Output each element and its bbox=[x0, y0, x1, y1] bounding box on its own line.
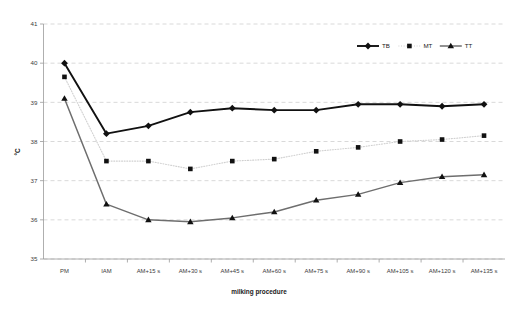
y-axis-title: °C bbox=[14, 148, 21, 156]
data-point-mt bbox=[482, 133, 487, 138]
data-point-mt bbox=[230, 159, 235, 164]
y-tick-label: 36 bbox=[31, 216, 38, 223]
x-tick-label: IAM bbox=[101, 268, 112, 274]
series-line-mt bbox=[64, 77, 484, 169]
y-tick-label: 38 bbox=[31, 138, 38, 145]
y-tick-label: 40 bbox=[31, 59, 38, 66]
line-chart: 35363738394041 PMIAMAM+15 sAM+30 sAM+45 … bbox=[0, 0, 518, 313]
gridlines-group bbox=[44, 24, 506, 259]
y-tick-marks-group bbox=[40, 24, 44, 259]
data-point-mt bbox=[146, 159, 151, 164]
data-point-tb bbox=[355, 101, 362, 108]
y-tick-label: 37 bbox=[31, 177, 38, 184]
y-tick-label: 35 bbox=[31, 255, 38, 262]
x-tick-label: AM+105 s bbox=[387, 268, 414, 274]
data-point-tb bbox=[271, 107, 278, 114]
data-point-mt bbox=[356, 145, 361, 150]
data-point-mt bbox=[104, 159, 109, 164]
x-tick-label: AM+45 s bbox=[221, 268, 244, 274]
y-tick-label: 41 bbox=[31, 20, 38, 27]
data-point-mt bbox=[62, 75, 67, 80]
x-tick-marks-group bbox=[85, 259, 463, 263]
series-lines-group bbox=[64, 63, 484, 222]
x-tick-label: AM+60 s bbox=[263, 268, 286, 274]
data-point-tb bbox=[439, 103, 446, 110]
data-point-mt bbox=[440, 137, 445, 142]
x-tick-label: AM+75 s bbox=[304, 268, 327, 274]
y-tick-labels-group: 35363738394041 bbox=[31, 20, 38, 262]
x-axis-title: milking procedure bbox=[231, 288, 287, 296]
data-point-tb bbox=[187, 109, 194, 116]
x-tick-labels-group: PMIAMAM+15 sAM+30 sAM+45 sAM+60 sAM+75 s… bbox=[60, 268, 497, 274]
x-tick-label: AM+120 s bbox=[429, 268, 456, 274]
data-point-mt bbox=[272, 157, 277, 162]
data-point-tt bbox=[103, 201, 109, 207]
data-point-tb bbox=[313, 107, 320, 114]
legend-marker-mt bbox=[407, 44, 412, 49]
x-tick-label: PM bbox=[60, 268, 69, 274]
data-point-mt bbox=[188, 167, 193, 172]
chart-container: 35363738394041 PMIAMAM+15 sAM+30 sAM+45 … bbox=[0, 0, 518, 313]
series-markers-mt bbox=[62, 75, 486, 172]
chart-legend: TBMTTT bbox=[357, 42, 473, 49]
x-tick-label: AM+30 s bbox=[179, 268, 202, 274]
x-tick-label: AM+15 s bbox=[137, 268, 160, 274]
data-point-tb bbox=[145, 122, 152, 129]
x-tick-label: AM+90 s bbox=[346, 268, 369, 274]
legend-marker-tb bbox=[365, 43, 372, 50]
series-line-tb bbox=[64, 63, 484, 134]
x-tick-label: AM+135 s bbox=[471, 268, 498, 274]
series-markers-tb bbox=[61, 60, 487, 137]
legend-label-tb: TB bbox=[382, 42, 390, 49]
data-point-tt bbox=[61, 95, 67, 101]
series-markers-group bbox=[61, 60, 487, 224]
data-point-tb bbox=[397, 101, 404, 108]
data-point-tb bbox=[481, 101, 488, 108]
data-point-mt bbox=[398, 139, 403, 144]
legend-label-tt: TT bbox=[465, 42, 473, 49]
data-point-mt bbox=[314, 149, 319, 154]
legend-label-mt: MT bbox=[423, 42, 432, 49]
data-point-tb bbox=[229, 105, 236, 112]
y-tick-label: 39 bbox=[31, 99, 38, 106]
